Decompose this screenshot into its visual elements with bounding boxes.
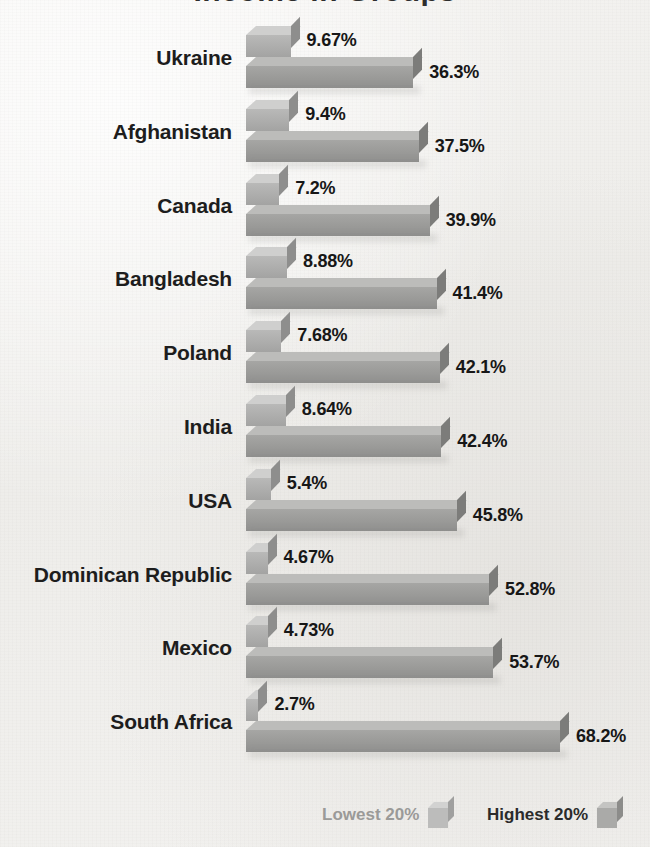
chart-row: Poland7.68%42.1% (0, 321, 650, 395)
value-label-highest-20-canada: 39.9% (446, 210, 496, 231)
category-label-ukraine: Ukraine (0, 46, 232, 70)
bar-highest-20-south-africa (246, 730, 560, 752)
bar-lowest-20-bangladesh (246, 256, 287, 278)
category-label-south-africa: South Africa (0, 710, 232, 734)
bar-lowest-20-india (246, 404, 286, 426)
value-label-highest-20-bangladesh: 41.4% (453, 283, 503, 304)
bar-highest-20-dominican-republic (246, 583, 489, 605)
value-label-highest-20-ukraine: 36.3% (429, 62, 479, 83)
value-label-lowest-20-bangladesh: 8.88% (303, 251, 353, 272)
category-label-india: India (0, 415, 232, 439)
bar-highest-20-usa (246, 509, 457, 531)
legend-label-highest-20: Highest 20% (487, 805, 588, 825)
chart-row: Ukraine9.67%36.3% (0, 26, 650, 100)
value-label-lowest-20-ukraine: 9.67% (307, 30, 357, 51)
value-label-highest-20-afghanistan: 37.5% (435, 136, 485, 157)
value-label-lowest-20-india: 8.64% (302, 399, 352, 420)
category-label-mexico: Mexico (0, 636, 232, 660)
chart-row: South Africa2.7%68.2% (0, 690, 650, 764)
bar-highest-20-afghanistan (246, 140, 419, 162)
category-label-canada: Canada (0, 194, 232, 218)
value-label-lowest-20-poland: 7.68% (297, 325, 347, 346)
bar-chart: Ukraine9.67%36.3%Afghanistan9.4%37.5%Can… (0, 16, 650, 786)
bar-highest-20-mexico (246, 656, 493, 678)
value-label-lowest-20-south-africa: 2.7% (274, 694, 314, 715)
category-label-poland: Poland (0, 341, 232, 365)
bar-highest-20-ukraine (246, 66, 413, 88)
value-label-highest-20-poland: 42.1% (456, 357, 506, 378)
legend-item-highest-20[interactable]: Highest 20% (487, 802, 623, 828)
value-label-lowest-20-usa: 5.4% (287, 473, 327, 494)
legend-item-lowest-20[interactable]: Lowest 20% (322, 802, 454, 828)
bar-lowest-20-mexico (246, 625, 268, 647)
category-label-usa: USA (0, 489, 232, 513)
legend-swatch-highest-20-cube-icon (597, 802, 623, 828)
chart-legend: Lowest 20% Highest 20% (0, 794, 650, 844)
chart-row: Bangladesh8.88%41.4% (0, 247, 650, 321)
chart-row: Canada7.2%39.9% (0, 174, 650, 248)
value-label-lowest-20-dominican-republic: 4.67% (284, 547, 334, 568)
value-label-highest-20-south-africa: 68.2% (576, 726, 626, 747)
chart-row: India8.64%42.4% (0, 395, 650, 469)
bar-lowest-20-afghanistan (246, 109, 289, 131)
chart-row: Dominican Republic4.67%52.8% (0, 543, 650, 617)
bar-lowest-20-south-africa (246, 699, 258, 721)
value-label-highest-20-usa: 45.8% (473, 505, 523, 526)
value-label-highest-20-mexico: 53.7% (509, 652, 559, 673)
value-label-lowest-20-canada: 7.2% (295, 178, 335, 199)
value-label-highest-20-india: 42.4% (457, 431, 507, 452)
bar-lowest-20-usa (246, 478, 271, 500)
bar-highest-20-poland (246, 361, 440, 383)
value-label-highest-20-dominican-republic: 52.8% (505, 579, 555, 600)
bar-lowest-20-ukraine (246, 35, 291, 57)
bar-lowest-20-poland (246, 330, 281, 352)
legend-label-lowest-20: Lowest 20% (322, 805, 419, 825)
chart-row: Mexico4.73%53.7% (0, 616, 650, 690)
bar-highest-20-canada (246, 214, 430, 236)
bar-highest-20-india (246, 435, 441, 457)
value-label-lowest-20-afghanistan: 9.4% (305, 104, 345, 125)
bar-lowest-20-dominican-republic (246, 552, 268, 574)
category-label-dominican-republic: Dominican Republic (0, 563, 232, 587)
value-label-lowest-20-mexico: 4.73% (284, 620, 334, 641)
category-label-afghanistan: Afghanistan (0, 120, 232, 144)
category-label-bangladesh: Bangladesh (0, 267, 232, 291)
chart-title: Income in Groups (0, 0, 650, 6)
legend-swatch-lowest-20-cube-icon (428, 802, 454, 828)
chart-row: USA5.4%45.8% (0, 469, 650, 543)
bar-highest-20-bangladesh (246, 287, 437, 309)
chart-row: Afghanistan9.4%37.5% (0, 100, 650, 174)
bar-lowest-20-canada (246, 183, 279, 205)
